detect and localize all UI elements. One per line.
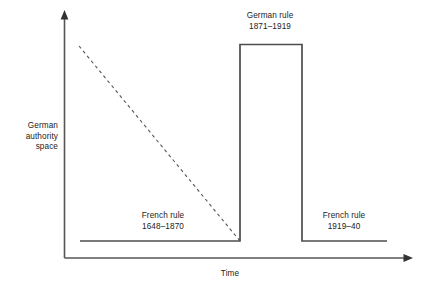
y-axis-label: German authority space bbox=[26, 121, 58, 153]
x-axis-label: Time bbox=[221, 269, 239, 280]
y-axis-arrowhead bbox=[61, 10, 69, 20]
french-rule-1648-1870-annotation: French rule 1648–1870 bbox=[142, 211, 185, 232]
x-axis-arrowhead bbox=[404, 254, 414, 262]
french-rule-1919-40-annotation: French rule 1919–40 bbox=[323, 211, 366, 232]
german-rule-annotation: German rule 1871–1919 bbox=[247, 11, 294, 32]
chart-plot-area bbox=[0, 0, 425, 292]
chart-figure: German authority space Time German rule … bbox=[0, 0, 425, 292]
